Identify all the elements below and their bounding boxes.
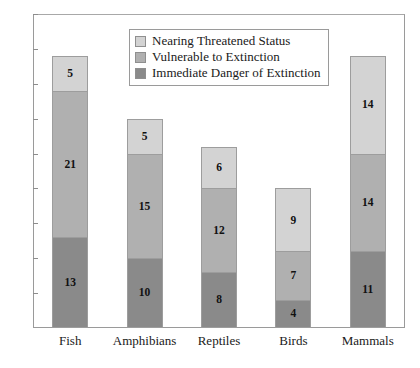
bar-segment[interactable]: 14 xyxy=(350,56,386,154)
bar-segment-value: 9 xyxy=(291,215,297,227)
bar-birds[interactable]: 974 xyxy=(275,188,311,328)
bar-segment[interactable]: 5 xyxy=(52,56,88,91)
bar-reptiles[interactable]: 6128 xyxy=(201,147,237,328)
bar-segment[interactable]: 7 xyxy=(275,251,311,300)
legend-item-label: Nearing Threatened Status xyxy=(152,33,290,49)
bar-segment-value: 10 xyxy=(139,287,151,299)
bar-segment-value: 11 xyxy=(362,284,373,296)
x-axis-label-amphibians: Amphibians xyxy=(107,332,181,350)
bar-segment-value: 13 xyxy=(64,277,76,289)
legend-swatch-icon xyxy=(135,52,146,63)
bar-segment-value: 7 xyxy=(291,270,297,282)
bar-segment[interactable]: 14 xyxy=(350,154,386,252)
y-axis: 051015202530354045 xyxy=(0,0,33,368)
chart-legend: Nearing Threatened StatusVulnerable to E… xyxy=(129,29,329,86)
bar-segment[interactable]: 21 xyxy=(52,91,88,238)
x-axis-label-fish: Fish xyxy=(33,332,107,350)
bar-segment[interactable]: 8 xyxy=(201,272,237,328)
bar-segment-value: 8 xyxy=(216,294,222,306)
bar-segment-value: 14 xyxy=(362,197,374,209)
bar-segment[interactable]: 11 xyxy=(350,251,386,328)
x-axis: FishAmphibiansReptilesBirdsMammals xyxy=(33,332,405,354)
bar-segment-value: 5 xyxy=(67,68,73,80)
bar-segment-value: 14 xyxy=(362,99,374,111)
x-axis-label-birds: Birds xyxy=(256,332,330,350)
bar-segment[interactable]: 4 xyxy=(275,300,311,328)
legend-item-label: Vulnerable to Extinction xyxy=(152,49,280,65)
bar-segment[interactable]: 6 xyxy=(201,147,237,189)
bar-segment[interactable]: 10 xyxy=(127,258,163,328)
stacked-bar-chart: 051015202530354045 521135151061289741414… xyxy=(0,0,420,368)
legend-swatch-icon xyxy=(135,36,146,47)
legend-item[interactable]: Immediate Danger of Extinction xyxy=(135,65,321,81)
bar-mammals[interactable]: 141411 xyxy=(350,56,386,328)
bar-amphibians[interactable]: 51510 xyxy=(127,119,163,328)
bar-segment-value: 15 xyxy=(139,201,151,213)
bar-segment-value: 12 xyxy=(213,225,225,237)
bar-segment-value: 5 xyxy=(142,131,148,143)
legend-item-label: Immediate Danger of Extinction xyxy=(152,65,321,81)
bar-fish[interactable]: 52113 xyxy=(52,56,88,328)
bar-segment[interactable]: 13 xyxy=(52,237,88,328)
bar-segment[interactable]: 5 xyxy=(127,119,163,154)
legend-item[interactable]: Vulnerable to Extinction xyxy=(135,49,321,65)
x-axis-label-reptiles: Reptiles xyxy=(182,332,256,350)
bar-segment-value: 4 xyxy=(291,308,297,320)
x-axis-label-mammals: Mammals xyxy=(331,332,405,350)
legend-swatch-icon xyxy=(135,68,146,79)
bar-segment[interactable]: 9 xyxy=(275,188,311,251)
legend-item[interactable]: Nearing Threatened Status xyxy=(135,33,321,49)
bar-segment-value: 6 xyxy=(216,162,222,174)
bar-segment-value: 21 xyxy=(64,159,76,171)
bar-segment[interactable]: 15 xyxy=(127,154,163,259)
bar-segment[interactable]: 12 xyxy=(201,188,237,272)
